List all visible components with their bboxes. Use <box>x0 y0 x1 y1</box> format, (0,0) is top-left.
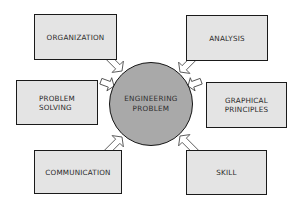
node-graphical-principles: GRAPHICAL PRINCIPLES <box>206 82 287 128</box>
node-label: ORGANIZATION <box>47 33 105 42</box>
node-analysis: ANALYSIS <box>186 15 268 61</box>
node-label: ANALYSIS <box>209 34 245 43</box>
center-label: ENGINEERING PROBLEM <box>124 94 177 114</box>
node-organization: ORGANIZATION <box>34 14 117 60</box>
node-problem-solving: PROBLEM SOLVING <box>16 80 98 125</box>
node-skill: SKILL <box>186 150 267 195</box>
node-label: SKILL <box>216 168 236 177</box>
node-label: GRAPHICAL PRINCIPLES <box>225 96 268 114</box>
node-communication: COMMUNICATION <box>34 150 122 194</box>
center-node-engineering-problem: ENGINEERING PROBLEM <box>109 62 193 146</box>
node-label: COMMUNICATION <box>45 168 110 177</box>
node-label: PROBLEM SOLVING <box>39 94 75 112</box>
diagram-canvas: ORGANIZATION ANALYSIS PROBLEM SOLVING GR… <box>0 0 299 207</box>
